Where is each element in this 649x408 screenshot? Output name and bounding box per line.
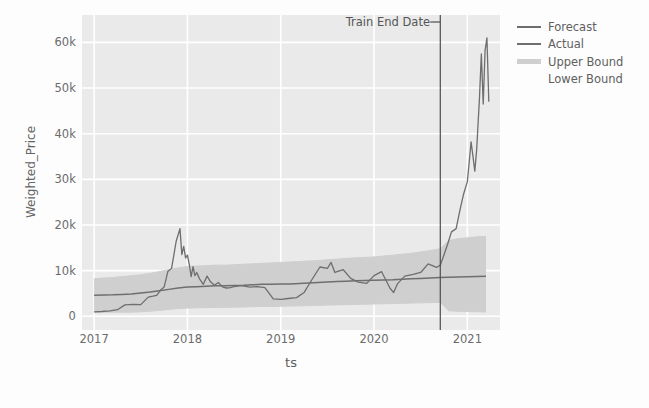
y-tick-label: 40k xyxy=(2,127,76,141)
train-end-date-label: Train End Date xyxy=(346,15,432,29)
y-tick-label: 50k xyxy=(2,81,76,95)
legend-swatch xyxy=(517,21,541,32)
legend-swatch xyxy=(517,39,541,50)
x-tick-label: 2019 xyxy=(266,332,295,346)
y-axis-ticks: 010k20k30k40k50k60k xyxy=(0,15,76,330)
y-tick-label: 20k xyxy=(2,218,76,232)
legend-label: Lower Bound xyxy=(548,72,623,86)
plot-area xyxy=(82,15,500,330)
legend-item[interactable]: Forecast xyxy=(517,18,645,36)
legend-swatch xyxy=(517,56,541,67)
legend-label: Actual xyxy=(548,37,584,51)
x-axis-ticks: 20172018201920202021 xyxy=(82,332,500,354)
x-tick-label: 2020 xyxy=(359,332,388,346)
x-tick-label: 2021 xyxy=(453,332,482,346)
chart-legend: ForecastActualUpper BoundLower Bound xyxy=(517,18,645,88)
legend-swatch xyxy=(517,74,541,85)
plot-canvas xyxy=(82,15,500,330)
legend-label: Upper Bound xyxy=(548,55,623,69)
legend-item[interactable]: Actual xyxy=(517,36,645,54)
legend-item[interactable]: Lower Bound xyxy=(517,71,645,89)
x-axis-title: ts xyxy=(285,355,297,370)
y-tick-label: 0 xyxy=(2,309,76,323)
x-tick-label: 2018 xyxy=(173,332,202,346)
legend-item[interactable]: Upper Bound xyxy=(517,53,645,71)
chart-screenshot: Weighted_Price 010k20k30k40k50k60k Train… xyxy=(0,0,649,408)
confidence-band xyxy=(94,236,486,312)
x-tick-label: 2017 xyxy=(79,332,108,346)
legend-label: Forecast xyxy=(548,20,597,34)
y-tick-label: 30k xyxy=(2,172,76,186)
y-tick-label: 10k xyxy=(2,264,76,278)
y-tick-label: 60k xyxy=(2,35,76,49)
